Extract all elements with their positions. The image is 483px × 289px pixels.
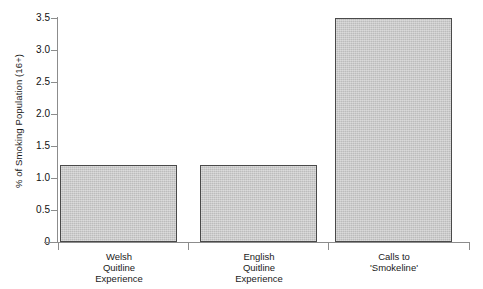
y-axis-tick-label: 2.0 [22, 109, 50, 119]
y-axis-tick-label: 1.0 [22, 173, 50, 183]
bar [335, 18, 452, 242]
x-axis-category-label: Calls to 'Smokeline' [333, 251, 455, 273]
y-axis-tick-label: 1.5 [22, 141, 50, 151]
y-axis-tick-label: 3.5 [22, 13, 50, 23]
x-axis-category-label: English Quitline Experience [198, 251, 320, 284]
bar [60, 165, 177, 242]
y-axis-tick-label: 2.5 [22, 77, 50, 87]
x-axis-tick-mark [58, 243, 59, 250]
bar-chart: % of Smoking Population (16+) 00.51.01.5… [0, 0, 483, 289]
x-axis-tick-mark [328, 243, 329, 250]
y-axis-line [57, 17, 58, 243]
x-axis-tick-mark [469, 243, 470, 250]
x-axis-category-label: Welsh Quitline Experience [58, 251, 180, 284]
y-axis-tick-labels: 00.51.01.52.02.53.03.5 [22, 0, 50, 289]
y-axis-tick-label: 3.0 [22, 45, 50, 55]
x-axis-line [44, 242, 470, 243]
x-axis-tick-mark [188, 243, 189, 250]
bar [200, 165, 317, 242]
y-axis-tick-label: 0.5 [22, 205, 50, 215]
